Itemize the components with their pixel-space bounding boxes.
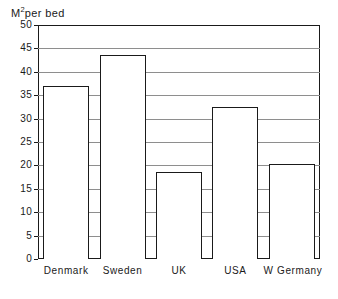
bar-usa bbox=[212, 107, 258, 259]
y-tick-label: 45 bbox=[20, 43, 32, 53]
y-tick-mark bbox=[34, 236, 38, 237]
y-axis-label-prefix: M bbox=[11, 7, 21, 19]
plot-area: 05101520253035404550 bbox=[38, 25, 320, 259]
y-tick-mark bbox=[34, 25, 38, 26]
y-tick-label: 15 bbox=[20, 184, 32, 194]
y-tick-label: 10 bbox=[20, 207, 32, 217]
bar-denmark bbox=[43, 86, 89, 259]
x-category-label: W Germany bbox=[264, 265, 320, 276]
y-tick-label: 40 bbox=[20, 67, 32, 77]
bar-chart: M2per bed 05101520253035404550 DenmarkSw… bbox=[0, 0, 338, 299]
y-axis-label: M2per bed bbox=[11, 4, 65, 19]
y-tick-label: 20 bbox=[20, 160, 32, 170]
gridline bbox=[38, 25, 320, 26]
bar-w-germany bbox=[269, 164, 315, 259]
y-tick-label: 50 bbox=[20, 20, 32, 30]
y-tick-mark bbox=[34, 95, 38, 96]
x-category-label: Sweden bbox=[94, 265, 150, 276]
gridline bbox=[38, 48, 320, 49]
gridline bbox=[38, 72, 320, 73]
x-category-label: USA bbox=[207, 265, 263, 276]
y-tick-mark bbox=[34, 48, 38, 49]
y-tick-mark bbox=[34, 142, 38, 143]
x-category-label: UK bbox=[151, 265, 207, 276]
y-tick-mark bbox=[34, 119, 38, 120]
y-tick-mark bbox=[34, 165, 38, 166]
y-tick-mark bbox=[34, 259, 38, 260]
y-tick-mark bbox=[34, 212, 38, 213]
bar-uk bbox=[156, 172, 202, 259]
bar-sweden bbox=[100, 55, 146, 259]
y-tick-label: 5 bbox=[26, 231, 32, 241]
y-tick-mark bbox=[34, 189, 38, 190]
y-tick-mark bbox=[34, 72, 38, 73]
y-axis-label-suffix: per bed bbox=[25, 7, 65, 19]
y-tick-label: 25 bbox=[20, 137, 32, 147]
y-tick-label: 30 bbox=[20, 114, 32, 124]
x-category-label: Denmark bbox=[38, 265, 94, 276]
y-tick-label: 35 bbox=[20, 90, 32, 100]
y-tick-label: 0 bbox=[26, 254, 32, 264]
